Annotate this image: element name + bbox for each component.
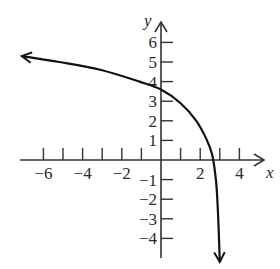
- x-tick-label: −4: [74, 164, 93, 183]
- y-tick-label: 2: [149, 112, 158, 131]
- x-tick-label: −6: [34, 164, 52, 183]
- x-axis-label: x: [265, 163, 274, 182]
- y-tick-label: 1: [149, 131, 158, 150]
- graph: −6−4−224654321−1−2−3−4 x y: [0, 0, 280, 269]
- function-curve: [22, 56, 220, 262]
- y-tick-label: −4: [139, 229, 158, 248]
- x-tick-label: −2: [113, 164, 131, 183]
- y-tick-label: 6: [149, 33, 158, 52]
- y-tick-label: −3: [139, 210, 157, 229]
- y-tick-label: 4: [149, 73, 158, 92]
- y-tick-label: −1: [139, 171, 157, 190]
- tick-labels: −6−4−224654321−1−2−3−4: [34, 33, 244, 248]
- y-tick-label: −2: [139, 190, 157, 209]
- x-tick-label: 4: [235, 164, 244, 183]
- y-tick-label: 3: [149, 92, 158, 111]
- x-tick-label: 2: [196, 164, 205, 183]
- y-axis-label: y: [142, 11, 152, 30]
- y-tick-label: 5: [149, 53, 158, 72]
